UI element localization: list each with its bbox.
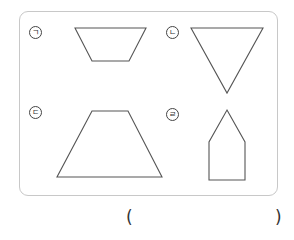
shapes-canvas <box>0 0 294 240</box>
shape-giyeok-trapezoid <box>75 28 146 61</box>
answer-open-paren: ( <box>126 207 133 227</box>
shape-nieun-triangle <box>191 28 263 93</box>
shape-rieul-pentagon <box>209 110 245 180</box>
answer-close-paren: ) <box>275 207 282 227</box>
answer-blank[interactable] <box>140 207 270 227</box>
shape-digeut-trapezoid <box>57 111 162 177</box>
